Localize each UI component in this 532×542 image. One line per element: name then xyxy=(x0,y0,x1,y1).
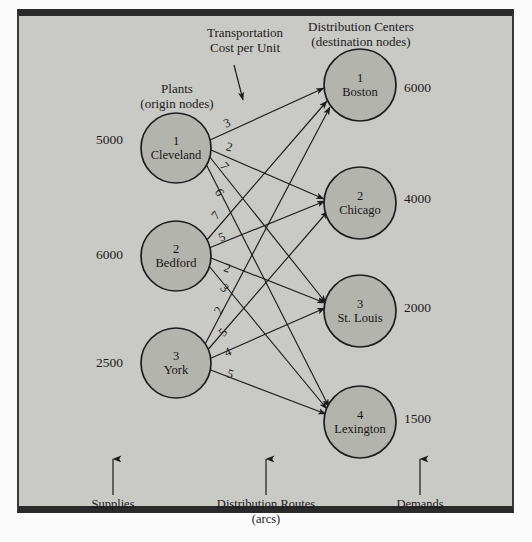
node-origin-cleveland[interactable] xyxy=(141,113,211,183)
supply-value-york: 2500 xyxy=(96,355,123,370)
demand-value-stlouis: 2000 xyxy=(404,300,431,315)
arcs-from-cleveland xyxy=(205,88,329,407)
node-dest-chicago[interactable] xyxy=(324,167,396,239)
node-origin-bedford[interactable] xyxy=(141,221,211,291)
origin-group-title: Plants (origin nodes) xyxy=(118,82,236,111)
network-canvas: 1 Cleveland 2 Bedford 3 York 1 Boston 2 … xyxy=(0,0,532,542)
demand-value-boston: 6000 xyxy=(404,80,431,95)
caption-supplies: Supplies xyxy=(63,497,163,512)
caption-routes-line1: Distribution Routes xyxy=(196,497,336,512)
cost-annotation-line2: Cost per Unit xyxy=(185,41,305,56)
dest-group-title-line2: (destination nodes) xyxy=(286,35,436,50)
arc-cleveland-chicago xyxy=(211,150,324,199)
caption-routes: Distribution Routes (arcs) xyxy=(196,497,336,527)
demand-value-chicago: 4000 xyxy=(404,191,431,206)
supply-value-cleveland: 5000 xyxy=(96,132,123,147)
node-dest-stlouis[interactable] xyxy=(324,275,396,347)
node-dest-lexington[interactable] xyxy=(324,386,396,458)
cost-annotation: Transportation Cost per Unit xyxy=(185,26,305,55)
node-origin-york[interactable] xyxy=(141,328,211,398)
diagram-page: 1 Cleveland 2 Bedford 3 York 1 Boston 2 … xyxy=(0,0,532,542)
caption-demands: Demands xyxy=(370,497,470,512)
dest-group-title-line1: Distribution Centers xyxy=(286,20,436,35)
demand-value-lexington: 1500 xyxy=(404,411,431,426)
network-svg xyxy=(0,0,532,542)
dest-group-title: Distribution Centers (destination nodes) xyxy=(286,20,436,49)
origin-group-title-line1: Plants xyxy=(118,82,236,97)
arcs-from-york xyxy=(202,107,330,414)
cost-annotation-line1: Transportation xyxy=(185,26,305,41)
caption-routes-line2: (arcs) xyxy=(196,512,336,527)
node-dest-boston[interactable] xyxy=(324,49,396,121)
supply-value-bedford: 6000 xyxy=(96,247,123,262)
origin-group-title-line2: (origin nodes) xyxy=(118,97,236,112)
